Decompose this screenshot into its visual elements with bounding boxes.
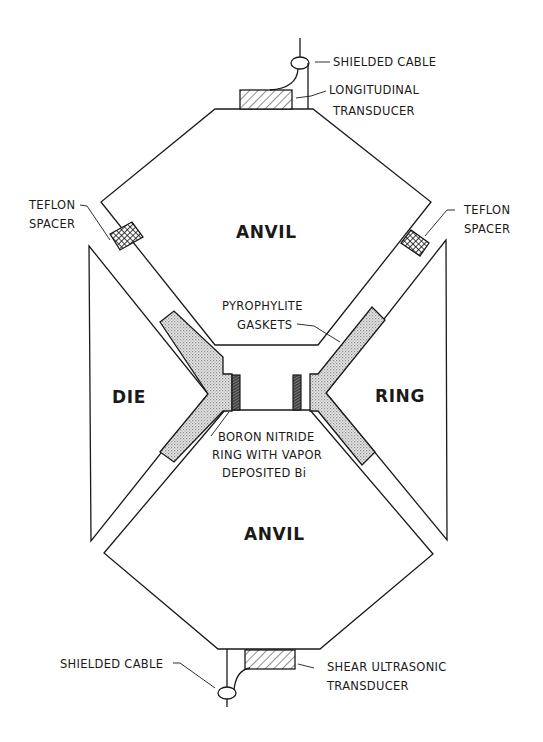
callout-teflon-right-line1: TEFLON xyxy=(463,203,510,217)
callout-longitudinal-line1: LONGITUDINAL xyxy=(329,83,419,97)
boron-nitride-ring-right xyxy=(293,375,301,410)
callout-bn-line3: DEPOSITED Bi xyxy=(222,466,306,480)
callout-bn-line2: RING WITH VAPOR xyxy=(212,448,322,462)
boron-nitride-ring-left xyxy=(232,375,240,410)
callout-longitudinal-line2: TRANSDUCER xyxy=(332,104,415,118)
longitudinal-transducer-assembly xyxy=(240,38,309,109)
top-signal-wire xyxy=(270,69,298,90)
leader-teflon-left xyxy=(80,205,110,240)
callout-gaskets-line2: GASKETS xyxy=(237,318,292,332)
callout-shear-line1: SHEAR ULTRASONIC xyxy=(327,660,447,674)
belt-apparatus-diagram: DIE RING ANVIL ANVIL xyxy=(0,0,543,742)
leader-bottom-cable xyxy=(173,663,215,688)
callout-bn-line1: BORON NITRIDE xyxy=(218,430,314,444)
callout-top-shielded-cable: SHIELDED CABLE xyxy=(333,55,436,69)
shear-transducer-assembly xyxy=(218,649,295,707)
lower-anvil-label: ANVIL xyxy=(244,524,305,544)
callout-bottom-shielded-cable: SHIELDED CABLE xyxy=(60,657,163,671)
callout-teflon-left-line2: SPACER xyxy=(29,217,75,231)
leader-shear xyxy=(298,664,314,668)
leader-longitudinal xyxy=(296,91,326,98)
upper-anvil-label: ANVIL xyxy=(236,222,297,242)
leader-teflon-right xyxy=(425,210,455,236)
top-cable-connector xyxy=(291,57,309,69)
bottom-signal-wire xyxy=(234,668,250,690)
callout-shear-line2: TRANSDUCER xyxy=(326,679,409,693)
ring-label: RING xyxy=(375,386,425,406)
longitudinal-transducer xyxy=(240,90,292,109)
shear-ultrasonic-transducer xyxy=(245,650,295,669)
callout-teflon-left-line1: TEFLON xyxy=(28,198,75,212)
callout-gaskets-line1: PYROPHYLITE xyxy=(222,299,303,313)
callout-teflon-right-line2: SPACER xyxy=(464,222,510,236)
die-label: DIE xyxy=(112,387,146,407)
bottom-cable-connector xyxy=(218,687,236,699)
